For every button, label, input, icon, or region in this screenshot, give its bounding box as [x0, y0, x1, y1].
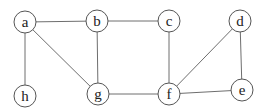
edge-a-g [25, 22, 98, 94]
edges-layer [25, 21, 242, 96]
node-c: c [158, 10, 180, 32]
nodes-layer: abcdhgfe [14, 10, 253, 107]
node-label: b [93, 13, 101, 29]
node-label: c [166, 13, 173, 29]
edge-d-f [169, 21, 240, 94]
node-label: d [236, 13, 244, 29]
node-e: e [231, 79, 253, 101]
node-d: d [229, 10, 251, 32]
node-a: a [14, 11, 36, 33]
node-f: f [158, 83, 180, 105]
node-label: e [239, 82, 246, 98]
node-label: a [22, 14, 29, 30]
node-b: b [86, 10, 108, 32]
node-h: h [14, 85, 36, 107]
node-g: g [87, 83, 109, 105]
node-label: h [21, 88, 29, 104]
node-label: f [167, 86, 172, 102]
graph-diagram: abcdhgfe [0, 0, 266, 112]
node-label: g [94, 86, 102, 102]
